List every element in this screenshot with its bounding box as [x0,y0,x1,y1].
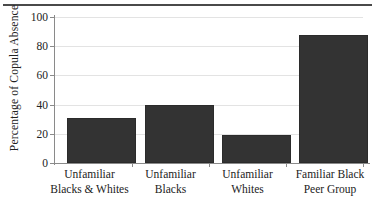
y-tick-label-0: 0 [22,158,48,169]
x-label-line-2: Blacks [132,182,209,197]
y-tick-label-80: 80 [22,41,48,52]
x-label-line-2: Blacks & Whites [47,182,132,197]
x-axis-line [54,163,370,164]
y-tickmark-20 [50,134,54,135]
y-tick-label-20: 20 [22,129,48,140]
gridline-100 [55,17,363,18]
x-label-familiar-black-peer-group: Familiar Black Peer Group [286,167,374,196]
bar-chart-figure: Percentage of Copula Absence 100 80 60 4… [0,0,378,200]
y-tick-label-60: 60 [22,70,48,81]
x-label-line-1: Familiar Black [286,167,374,182]
y-axis-title: Percentage of Copula Absence [6,3,22,153]
x-label-line-2: Peer Group [286,182,374,197]
x-label-line-1: Unfamiliar [47,167,132,182]
y-tickmark-100 [50,17,54,18]
y-tickmark-80 [50,46,54,47]
bar-familiar-black-peer-group [299,35,368,163]
y-tickmark-60 [50,75,54,76]
plot-area [55,17,363,163]
bar-unfamiliar-blacks [145,105,214,163]
x-label-unfamiliar-blacks: Unfamiliar Blacks [132,167,209,196]
y-tick-label-40: 40 [22,100,48,111]
y-tickmark-0 [50,163,54,164]
y-tick-label-100: 100 [22,12,48,23]
x-label-unfamiliar-whites: Unfamiliar Whites [209,167,286,196]
bar-unfamiliar-whites [222,135,291,163]
x-label-line-1: Unfamiliar [209,167,286,182]
x-label-line-1: Unfamiliar [132,167,209,182]
y-tickmark-40 [50,105,54,106]
top-divider-rule [3,4,372,6]
x-label-line-2: Whites [209,182,286,197]
bar-unfamiliar-blacks-and-whites [67,118,136,163]
x-label-unfamiliar-blacks-and-whites: Unfamiliar Blacks & Whites [47,167,132,196]
